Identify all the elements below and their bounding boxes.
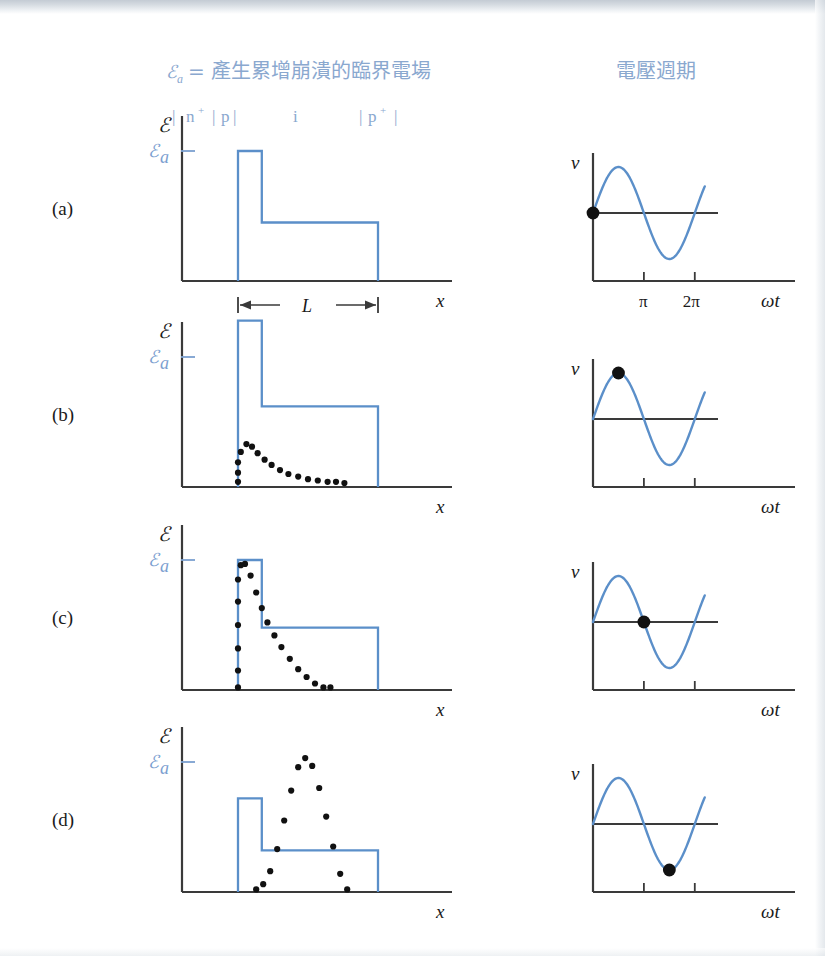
carrier-dot bbox=[302, 755, 308, 761]
carrier-dot bbox=[320, 684, 326, 690]
panels-layer: (a)ℰℰaxLvωtπ2π(b)ℰℰaxvωt(c)ℰℰaxvωt(d)ℰℰa… bbox=[52, 114, 795, 922]
phase-marker-dot-b bbox=[612, 367, 625, 380]
voltage-plot-b: vωt bbox=[571, 358, 795, 517]
voltage-xtick-label-1: 2π bbox=[683, 292, 701, 311]
critical-field-sublabel-b: a bbox=[160, 353, 169, 373]
layer-divider-5: | bbox=[394, 107, 397, 126]
critical-field-legend-text: = 產生累增崩潰的臨界電場 bbox=[188, 59, 431, 83]
carrier-dot bbox=[264, 619, 270, 625]
field-x-axis-label-b: x bbox=[435, 496, 445, 517]
voltage-x-axis-label-c: ωt bbox=[761, 699, 780, 720]
carrier-dot bbox=[287, 656, 293, 662]
panel-label-d: (d) bbox=[52, 809, 74, 831]
carrier-dot bbox=[312, 680, 318, 686]
carrier-dot bbox=[327, 684, 333, 690]
panel-label-a: (a) bbox=[52, 198, 73, 220]
voltage-xtick-label-0: π bbox=[639, 292, 648, 311]
carrier-dot bbox=[304, 674, 310, 680]
carrier-dot bbox=[235, 667, 241, 673]
carrier-dot bbox=[288, 788, 294, 794]
carrier-dot bbox=[238, 449, 244, 455]
carrier-dot bbox=[316, 785, 322, 791]
carrier-dot bbox=[278, 644, 284, 650]
carrier-dot bbox=[235, 684, 241, 690]
critical-field-legend-subscript: a bbox=[177, 72, 183, 86]
scan-shadow-right bbox=[815, 0, 825, 956]
panel-c: (c)ℰℰaxvωt bbox=[52, 523, 795, 720]
carrier-dot bbox=[274, 846, 280, 852]
carrier-dot bbox=[235, 470, 241, 476]
carrier-dot bbox=[253, 886, 259, 892]
figure-root: ℰ a = 產生累增崩潰的臨界電場 電壓週期 | n + | p | i | p… bbox=[0, 0, 825, 956]
panel-label-b: (b) bbox=[52, 404, 74, 426]
carrier-dot bbox=[235, 645, 241, 651]
critical-field-sublabel-d: a bbox=[160, 758, 169, 778]
carrier-dot bbox=[295, 474, 301, 480]
field-y-axis-label-a: ℰ bbox=[158, 114, 172, 136]
carrier-dot bbox=[277, 467, 283, 473]
carrier-dot bbox=[248, 573, 254, 579]
figure-canvas: ℰ a = 產生累增崩潰的臨界電場 電壓週期 | n + | p | i | p… bbox=[0, 0, 825, 956]
carrier-dot bbox=[309, 763, 315, 769]
scan-shadow-bottom bbox=[0, 948, 825, 956]
field-plot-b: ℰℰax bbox=[148, 320, 452, 517]
carrier-dot bbox=[315, 477, 321, 483]
voltage-y-axis-label-c: v bbox=[571, 561, 580, 582]
carrier-dot bbox=[235, 479, 241, 485]
carrier-dot bbox=[259, 605, 265, 611]
carrier-dot bbox=[344, 886, 350, 892]
layer-label-p: p bbox=[221, 107, 230, 126]
voltage-plot-c: vωt bbox=[571, 561, 795, 720]
voltage-y-axis-label-d: v bbox=[571, 763, 580, 784]
voltage-plot-d: vωt bbox=[571, 763, 795, 922]
layer-label-pplus: p bbox=[368, 107, 377, 126]
field-y-axis-label-c: ℰ bbox=[158, 523, 172, 545]
carrier-dot bbox=[267, 868, 273, 874]
carrier-density-dots-d bbox=[253, 755, 350, 893]
field-step-curve-c bbox=[238, 560, 378, 690]
field-step-curve-b bbox=[238, 321, 378, 487]
critical-field-sublabel-c: a bbox=[160, 556, 169, 576]
field-step-curve-a bbox=[238, 151, 378, 281]
carrier-dot bbox=[330, 843, 336, 849]
carrier-dot bbox=[249, 444, 255, 450]
carrier-dot bbox=[285, 471, 291, 477]
carrier-dot bbox=[341, 480, 347, 486]
device-layer-labels: | n + | p | i | p + | bbox=[172, 104, 397, 126]
phase-marker-dot-a bbox=[587, 207, 600, 220]
voltage-x-axis-label-d: ωt bbox=[761, 901, 780, 922]
voltage-x-axis-label-b: ωt bbox=[761, 496, 780, 517]
panel-d: (d)ℰℰaxvωt bbox=[52, 725, 795, 922]
carrier-dot bbox=[260, 881, 266, 887]
carrier-dot bbox=[242, 561, 248, 567]
header-group: ℰ a = 產生累增崩潰的臨界電場 電壓週期 bbox=[166, 59, 696, 86]
field-step-curve-d bbox=[238, 798, 378, 892]
carrier-dot bbox=[253, 589, 259, 595]
carrier-dot bbox=[235, 459, 241, 465]
voltage-plot-a: vωtπ2π bbox=[571, 152, 795, 311]
carrier-dot bbox=[333, 479, 339, 485]
layer-label-i: i bbox=[293, 107, 298, 126]
carrier-density-dots-b bbox=[235, 441, 348, 486]
carrier-dot bbox=[281, 817, 287, 823]
field-y-axis-label-d: ℰ bbox=[158, 725, 172, 747]
voltage-cycle-title: 電壓週期 bbox=[616, 59, 696, 83]
carrier-dot bbox=[235, 576, 241, 582]
carrier-dot bbox=[262, 457, 268, 463]
carrier-dot bbox=[325, 479, 331, 485]
scan-shadow-top bbox=[0, 0, 825, 14]
layer-divider-3: | bbox=[233, 107, 236, 126]
carrier-density-dots-c bbox=[235, 561, 334, 691]
field-x-axis-label-a: x bbox=[435, 290, 445, 311]
field-plot-d: ℰℰax bbox=[148, 725, 452, 922]
carrier-dot bbox=[305, 476, 311, 482]
carrier-dot bbox=[235, 599, 241, 605]
panel-label-c: (c) bbox=[52, 607, 73, 629]
carrier-dot bbox=[235, 622, 241, 628]
carrier-dot bbox=[337, 871, 343, 877]
layer-label-n-sup: + bbox=[198, 104, 204, 116]
panel-a: (a)ℰℰaxLvωtπ2π bbox=[52, 114, 795, 316]
critical-field-sublabel-a: a bbox=[160, 147, 169, 167]
phase-marker-dot-c bbox=[637, 616, 650, 629]
carrier-dot bbox=[269, 462, 275, 468]
